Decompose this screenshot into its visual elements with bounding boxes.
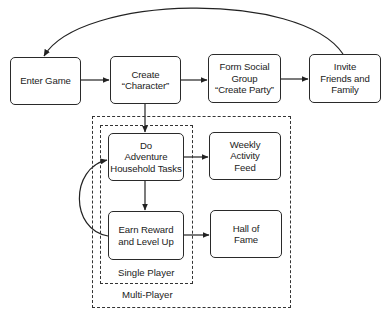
node-invite-friends: Invite Friends and Family [309,54,381,103]
node-do-adventure: Do Adventure Household Tasks [108,133,184,181]
multi-player-label: Multi-Player [122,289,173,300]
node-create-character: Create “Character” [110,56,181,104]
node-form-social-group: Form Social Group “Create Party” [208,54,281,103]
node-hall-of-fame: Hall of Fame [210,210,282,258]
node-enter-game: Enter Game [10,57,81,105]
node-weekly-feed: Weekly Activity Feed [209,132,281,180]
single-player-label: Single Player [118,267,175,278]
node-earn-reward: Earn Reward and Level Up [108,211,184,260]
edge-invite-to-enter [44,8,343,56]
